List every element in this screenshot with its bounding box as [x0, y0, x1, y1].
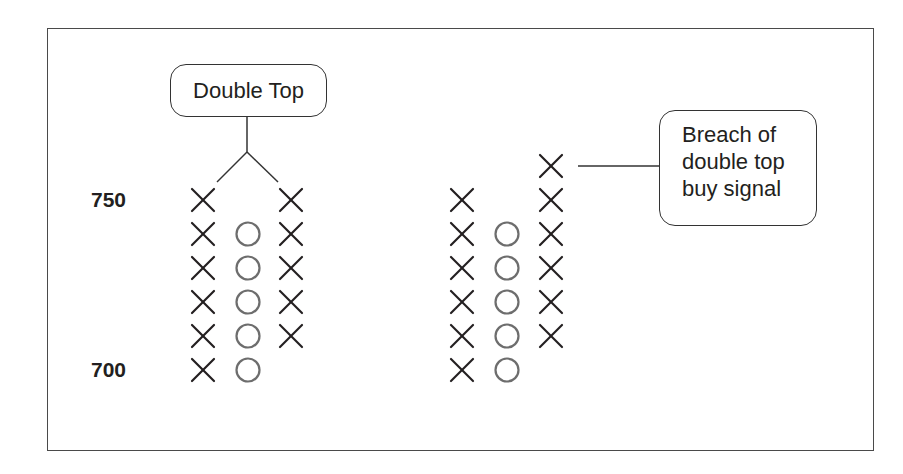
o-mark-icon: [496, 359, 519, 382]
double-top-label: Double Top: [193, 77, 304, 104]
x-mark-icon: [451, 223, 473, 245]
o-mark-icon: [496, 257, 519, 280]
x-mark-icon: [280, 189, 302, 211]
o-mark-icon: [237, 257, 260, 280]
x-mark-icon: [451, 257, 473, 279]
x-mark-icon: [280, 291, 302, 313]
o-mark-icon: [496, 291, 519, 314]
double-top-callout: Double Top: [170, 64, 327, 117]
o-mark-icon: [496, 223, 519, 246]
x-mark-icon: [192, 359, 214, 381]
o-mark-icon: [496, 325, 519, 348]
breach-label-line2: double top: [682, 148, 816, 175]
x-mark-icon: [451, 359, 473, 381]
price-label-700: 700: [91, 358, 126, 382]
x-mark-icon: [280, 257, 302, 279]
o-mark-icon: [237, 291, 260, 314]
breach-signal-callout: Breach of double top buy signal: [659, 110, 817, 226]
o-mark-icon: [237, 359, 260, 382]
x-mark-icon: [280, 223, 302, 245]
breach-label-line1: Breach of: [682, 121, 816, 148]
x-mark-icon: [280, 325, 302, 347]
x-mark-icon: [192, 189, 214, 211]
o-mark-icon: [237, 223, 260, 246]
price-label-750: 750: [91, 188, 126, 212]
x-mark-icon: [451, 325, 473, 347]
x-mark-icon: [192, 325, 214, 347]
breach-label-line3: buy signal: [682, 175, 816, 202]
x-mark-icon: [540, 155, 562, 177]
x-mark-icon: [540, 189, 562, 211]
x-mark-icon: [540, 325, 562, 347]
x-mark-icon: [192, 257, 214, 279]
double-top-connector-left: [217, 152, 247, 182]
double-top-connector-right: [247, 152, 278, 182]
x-mark-icon: [192, 223, 214, 245]
o-mark-icon: [237, 325, 260, 348]
x-mark-icon: [540, 291, 562, 313]
x-mark-icon: [451, 291, 473, 313]
x-mark-icon: [540, 223, 562, 245]
point-and-figure-chart: [0, 0, 903, 474]
x-mark-icon: [451, 189, 473, 211]
x-mark-icon: [540, 257, 562, 279]
x-mark-icon: [192, 291, 214, 313]
